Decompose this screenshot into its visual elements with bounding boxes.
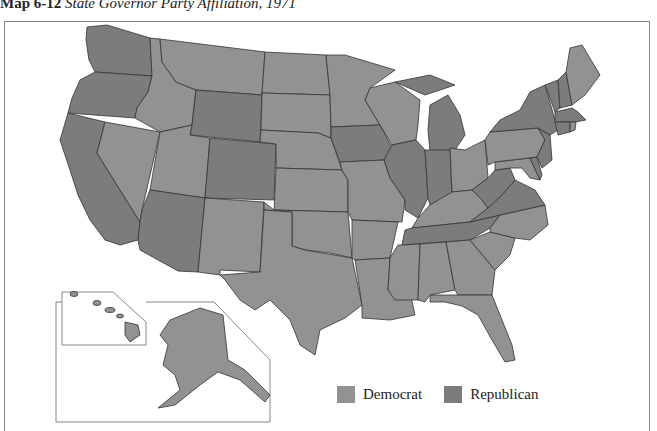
state-wyoming[interactable] xyxy=(190,90,262,142)
legend-item-republican: Republican xyxy=(444,386,538,403)
legend: Democrat Republican xyxy=(337,386,560,403)
state-colorado[interactable] xyxy=(205,138,276,200)
state-maine[interactable] xyxy=(566,45,600,105)
state-new-mexico[interactable] xyxy=(198,198,264,275)
legend-item-democrat: Democrat xyxy=(337,386,422,403)
state-kansas[interactable] xyxy=(274,168,348,212)
state-hawaii[interactable] xyxy=(70,292,140,343)
state-arkansas[interactable] xyxy=(352,220,398,260)
state-arizona[interactable] xyxy=(138,190,205,272)
legend-label-democrat: Democrat xyxy=(363,386,422,403)
state-mississippi[interactable] xyxy=(388,244,420,300)
state-florida[interactable] xyxy=(430,295,515,362)
state-north-dakota[interactable] xyxy=(262,52,330,95)
state-massachusetts[interactable] xyxy=(555,108,586,122)
legend-label-republican: Republican xyxy=(470,386,538,403)
democrat-swatch xyxy=(337,386,355,403)
inset-frame xyxy=(56,292,270,422)
state-washington[interactable] xyxy=(86,25,152,76)
state-connecticut[interactable] xyxy=(555,122,570,135)
republican-swatch xyxy=(444,386,462,403)
state-alaska[interactable] xyxy=(158,308,270,408)
state-iowa[interactable] xyxy=(331,125,392,162)
state-rhode-island[interactable] xyxy=(570,122,576,132)
